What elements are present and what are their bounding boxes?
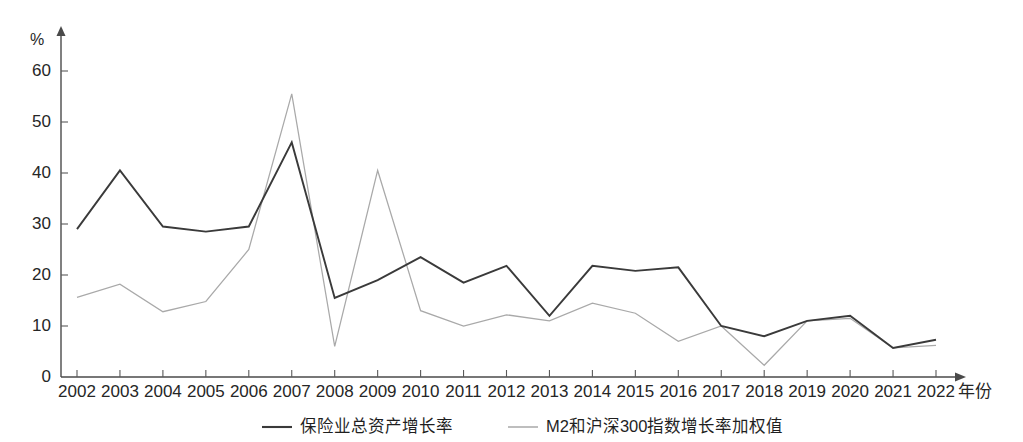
y-axis-arrowhead (57, 26, 66, 36)
legend-label: M2和沪深300指数增长率加权值 (546, 417, 783, 435)
x-tick-label: 2004 (144, 382, 182, 401)
x-tick-label: 2007 (273, 382, 311, 401)
x-axis-title: 年份 (958, 382, 992, 401)
legend-item[interactable]: 保险业总资产增长率 (262, 417, 453, 435)
y-tick-label: 10 (32, 316, 51, 335)
x-tick-label: 2002 (58, 382, 96, 401)
x-tick-label: 2013 (531, 382, 569, 401)
legend-label: 保险业总资产增长率 (300, 417, 453, 435)
x-tick-label: 2021 (874, 382, 912, 401)
x-axis: 2002200320042005200620072008200920102011… (58, 370, 992, 401)
x-tick-label: 2022 (917, 382, 955, 401)
x-tick-label: 2015 (616, 382, 654, 401)
x-tick-label: 2010 (402, 382, 440, 401)
series-line-m2-csi300 (77, 94, 936, 365)
y-axis-unit-label: % (30, 31, 44, 48)
y-tick-label: 40 (32, 163, 51, 182)
y-tick-label: 20 (32, 265, 51, 284)
x-tick-label: 2012 (488, 382, 526, 401)
legend-item[interactable]: M2和沪深300指数增长率加权值 (508, 417, 783, 435)
y-tick-group: 6050403020100 (32, 61, 68, 386)
x-tick-label: 2019 (788, 382, 826, 401)
x-tick-label: 2003 (101, 382, 139, 401)
x-tick-label: 2006 (230, 382, 268, 401)
chart-canvas: 6050403020100 % 200220032004200520062007… (0, 0, 1023, 442)
x-tick-group (77, 370, 936, 377)
x-tick-label: 2018 (745, 382, 783, 401)
x-tick-label: 2017 (702, 382, 740, 401)
y-tick-label: 60 (32, 61, 51, 80)
x-tick-label: 2009 (359, 382, 397, 401)
y-tick-label: 50 (32, 112, 51, 131)
x-tick-label-group: 2002200320042005200620072008200920102011… (58, 382, 955, 401)
y-tick-label: 0 (42, 367, 51, 386)
x-tick-label: 2020 (831, 382, 869, 401)
legend: 保险业总资产增长率M2和沪深300指数增长率加权值 (262, 417, 783, 435)
x-tick-label: 2008 (316, 382, 354, 401)
series-line-insurance-assets (77, 142, 936, 348)
y-axis: 6050403020100 % (30, 26, 68, 386)
x-tick-label: 2014 (573, 382, 611, 401)
y-tick-label: 30 (32, 214, 51, 233)
series-group (77, 94, 936, 365)
x-tick-label: 2016 (659, 382, 697, 401)
x-tick-label: 2011 (445, 382, 482, 401)
x-tick-label: 2005 (187, 382, 225, 401)
x-axis-arrowhead (955, 373, 966, 382)
line-chart: 6050403020100 % 200220032004200520062007… (0, 0, 1023, 442)
